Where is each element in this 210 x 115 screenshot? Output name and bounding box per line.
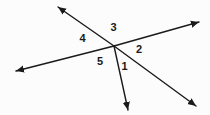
angle-label-1: 1 xyxy=(121,60,127,72)
diagram-background xyxy=(0,0,210,115)
diagram-svg: 12345 xyxy=(0,0,210,115)
angle-label-3: 3 xyxy=(110,21,116,33)
angle-label-5: 5 xyxy=(97,55,103,67)
angle-diagram: 12345 xyxy=(0,0,210,115)
angle-label-4: 4 xyxy=(79,32,86,44)
angle-label-2: 2 xyxy=(136,43,142,55)
